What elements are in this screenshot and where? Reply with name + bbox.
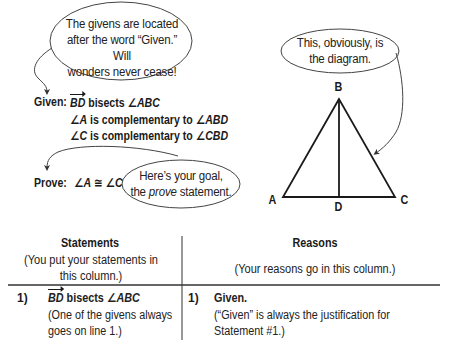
diagram-callout-arrow <box>376 53 403 153</box>
vertex-label-b: B <box>334 80 342 94</box>
callout-line: after the word “Given.” Will <box>58 32 187 64</box>
callout-line: wonders never cease! <box>58 64 187 80</box>
given-statement-3: ∠C is complementary to ∠CBD <box>70 128 228 144</box>
angle-label: ∠A <box>70 113 87 127</box>
reason-row-number: 1) <box>188 291 199 305</box>
callout-text: the <box>130 185 148 199</box>
statement-cell: BD bisects ∠ABC (One of the givens alway… <box>48 290 172 340</box>
statement-note: (One of the givens always <box>48 307 172 324</box>
ray-bd: BD <box>48 290 64 307</box>
callout-line: Here’s your goal, <box>129 168 234 184</box>
diagram-callout-text: This, obviously, is the diagram. <box>287 35 394 67</box>
statement-note: goes on line 1.) <box>48 323 172 340</box>
statements-column-subheader: (You put your statements in this column.… <box>18 252 163 284</box>
angle-label: ∠ABD <box>196 113 228 127</box>
given-text: is complementary to <box>87 113 196 127</box>
given-text: is complementary to <box>87 129 196 143</box>
given-text: bisects <box>85 96 127 110</box>
angle-label: ∠CBD <box>196 129 228 143</box>
reason-main: Given. <box>214 290 390 307</box>
reason-note: (“Given” is always the justification for <box>214 307 390 324</box>
angle-label: ∠C <box>70 129 87 143</box>
reason-cell: Given. (“Given” is always the justificat… <box>214 290 390 340</box>
vertex-label-c: C <box>400 193 408 207</box>
angle-label: ∠ABC <box>107 291 140 305</box>
subheader-line: (You put your statements in <box>18 252 163 268</box>
callout-text: statement. <box>177 185 232 199</box>
given-label: Given: <box>34 95 67 109</box>
triangle-abc <box>283 99 395 197</box>
given-statement-1: BD bisects ∠ABC <box>70 95 160 111</box>
vertex-label-a: A <box>268 193 276 207</box>
statement-main: BD bisects ∠ABC <box>48 290 172 307</box>
callout-emphasis: prove <box>149 185 177 199</box>
ray-bd: BD <box>70 95 85 111</box>
reason-note: Statement #1.) <box>214 323 390 340</box>
goal-callout-arrow <box>47 146 178 168</box>
subheader-line: this column.) <box>18 268 163 284</box>
vertex-label-d: D <box>334 200 342 214</box>
callout-line: This, obviously, is <box>287 35 394 51</box>
reasons-column-subheader: (Your reasons go in this column.) <box>209 261 421 277</box>
statements-column-header: Statements <box>27 236 153 250</box>
subheader-line: (Your reasons go in this column.) <box>209 261 421 277</box>
statement-text: bisects <box>64 291 107 305</box>
reasons-column-header: Reasons <box>257 236 374 250</box>
callout-line: the diagram. <box>287 51 394 67</box>
callout-line: the prove statement. <box>129 184 234 200</box>
callout-line: The givens are located <box>58 16 187 32</box>
prove-label: Prove: <box>34 176 67 190</box>
givens-callout-text: The givens are located after the word “G… <box>58 16 187 80</box>
givens-callout-arrow <box>34 48 52 92</box>
angle-label: ∠ABC <box>128 96 160 110</box>
goal-callout-text: Here’s your goal, the prove statement. <box>129 168 234 200</box>
statement-row-number: 1) <box>17 291 28 305</box>
prove-statement: ∠A ≅ ∠C <box>74 175 123 191</box>
given-statement-2: ∠A is complementary to ∠ABD <box>70 112 228 128</box>
